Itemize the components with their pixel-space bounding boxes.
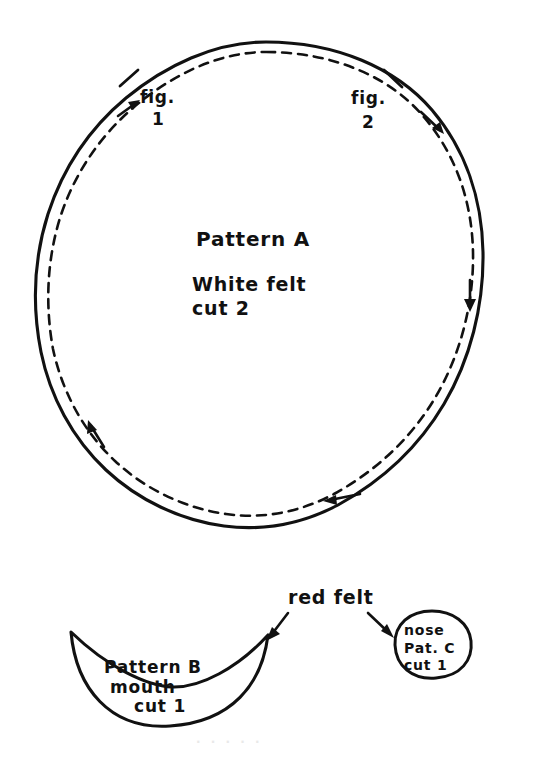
pattern-sheet: fig. 1 fig. 2 Pattern A White felt cut 2…	[0, 0, 534, 762]
pattern-c-title: Pat. C	[404, 640, 455, 656]
notch-tick-fig2	[120, 70, 138, 86]
notch-tick-fig1	[384, 70, 402, 87]
pattern-b-title: Pattern B	[104, 657, 202, 677]
arrow-to-nose	[368, 613, 394, 638]
pattern-a-title: Pattern A	[196, 227, 310, 251]
notch-label-fig1-line1: fig.	[351, 88, 386, 108]
pattern-b-part: mouth	[110, 677, 176, 697]
notch-label-fig1-line2: 2	[362, 112, 375, 132]
ghost-bleed-text: · · · · ·	[196, 735, 263, 749]
seam-arrow-right	[464, 280, 476, 312]
pattern-a-quantity: cut 2	[192, 297, 250, 319]
pattern-b-quantity: cut 1	[134, 696, 186, 716]
notch-label-fig2-line2: 1	[152, 109, 165, 129]
pattern-c-part: nose	[404, 622, 445, 638]
pattern-drawing-canvas: fig. 1 fig. 2 Pattern A White felt cut 2…	[0, 0, 534, 762]
pattern-c-quantity: cut 1	[404, 657, 448, 673]
red-felt-label: red felt	[288, 586, 374, 608]
seam-arrow-lower-left	[87, 420, 104, 447]
notch-label-fig2-line1: fig.	[140, 87, 175, 107]
pattern-a-material: White felt	[192, 273, 306, 295]
